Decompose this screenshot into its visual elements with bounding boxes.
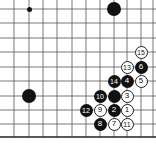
white-stone: 9	[94, 104, 107, 117]
white-stone: 15	[135, 46, 148, 59]
black-stone: 10	[94, 90, 107, 103]
black-stone: 4	[121, 75, 134, 88]
white-stone: 7	[108, 118, 121, 131]
black-stone	[22, 89, 36, 103]
white-stone: 5	[135, 75, 148, 88]
black-stone: 12	[80, 104, 93, 117]
white-stone: 1	[121, 104, 134, 117]
small-dot-marker	[27, 7, 32, 12]
black-stone	[107, 2, 121, 16]
white-stone: 13	[121, 61, 134, 74]
black-stone	[108, 90, 121, 103]
black-stone: 14	[108, 75, 121, 88]
go-board[interactable]: 151361445103129218711	[0, 0, 156, 150]
white-stone: 11	[121, 118, 134, 131]
black-stone: 2	[108, 104, 121, 117]
black-stone: 6	[135, 61, 148, 74]
white-stone: 3	[121, 90, 134, 103]
black-stone: 8	[94, 118, 107, 131]
